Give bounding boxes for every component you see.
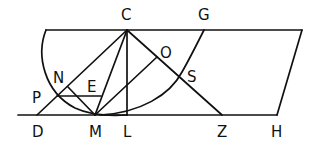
- line-CM: [95, 30, 127, 115]
- label-E: E: [87, 78, 96, 96]
- label-L: L: [123, 123, 132, 141]
- label-N: N: [53, 69, 64, 87]
- diagram-canvas: C G O N E S P D M L Z H: [0, 0, 316, 144]
- label-M: M: [89, 123, 102, 141]
- line-MO: [95, 57, 157, 115]
- label-G: G: [198, 6, 210, 24]
- label-Z: Z: [217, 123, 227, 141]
- label-D: D: [32, 123, 44, 141]
- geometry-diagram: C G O N E S P D M L Z H: [0, 0, 316, 144]
- label-O: O: [160, 44, 172, 62]
- label-C: C: [121, 6, 131, 24]
- label-H: H: [271, 123, 282, 141]
- right-side-line: [277, 30, 302, 115]
- label-S: S: [187, 68, 197, 86]
- label-P: P: [32, 89, 41, 107]
